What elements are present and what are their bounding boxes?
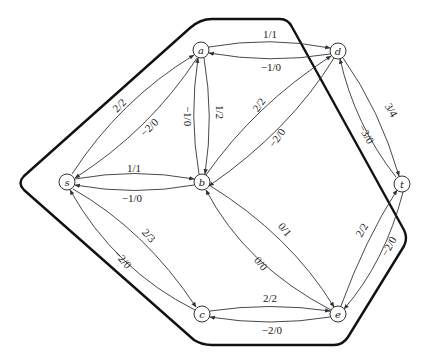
node-b: b [194, 174, 210, 190]
label-d-b: −2/0 [266, 126, 288, 150]
label-e-t: 2/2 [353, 221, 370, 239]
label-a-s: −2/0 [138, 115, 161, 138]
label-b-d: 2/2 [250, 96, 268, 114]
node-d: d [330, 43, 346, 59]
node-c-label: c [199, 309, 205, 320]
flow-network-diagram: 2/2 −2/0 1/1 −1/0 2/3 −2/0 1/1 −1/0 1/2 … [0, 0, 430, 363]
label-d-a: −1/0 [261, 61, 282, 73]
edge-a-b [204, 58, 209, 174]
node-e-label: e [335, 309, 341, 320]
label-s-b: 1/1 [127, 162, 141, 174]
edge-a-d [209, 42, 330, 48]
label-a-d: 1/1 [263, 28, 277, 40]
node-t: t [394, 176, 410, 192]
node-b-label: b [199, 177, 205, 188]
label-b-a: −1/0 [182, 106, 194, 127]
node-c: c [194, 306, 210, 322]
edge-e-c [210, 317, 330, 322]
node-s-label: s [64, 177, 69, 188]
edge-s-a [72, 55, 194, 174]
edge-b-e [209, 185, 334, 307]
edge-s-b [75, 174, 194, 180]
edge-t-e [344, 192, 403, 309]
node-a-label: a [198, 45, 204, 56]
label-s-a: 2/2 [110, 96, 128, 114]
label-b-e: 0/1 [276, 220, 294, 238]
label-t-e: −2/0 [378, 234, 398, 258]
edge-b-s [75, 185, 194, 191]
edge-t-d [340, 59, 396, 177]
node-d-label: d [335, 46, 341, 57]
label-c-e: 2/2 [263, 292, 277, 304]
label-a-b: 1/2 [214, 105, 226, 119]
label-t-d: −3/0 [356, 122, 377, 146]
label-d-t: 3/4 [383, 101, 401, 120]
edge-d-a [209, 53, 330, 59]
node-a: a [193, 42, 209, 58]
edge-d-b [209, 58, 334, 186]
cut-boundary [21, 19, 407, 345]
node-e: e [330, 306, 346, 322]
label-b-s: −1/0 [122, 192, 143, 204]
node-s: s [59, 174, 75, 190]
edge-c-s [70, 190, 195, 310]
label-e-b: 0/0 [252, 254, 271, 273]
label-e-c: −2/0 [262, 324, 283, 336]
edge-c-e [210, 307, 330, 312]
